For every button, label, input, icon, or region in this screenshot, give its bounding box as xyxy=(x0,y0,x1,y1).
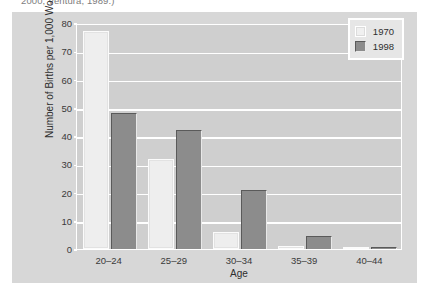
bar-1998-40-44[interactable] xyxy=(371,247,397,249)
y-axis-tick-label: 80 xyxy=(50,19,72,29)
bar-1998-20-24[interactable] xyxy=(111,113,137,249)
legend-swatch-icon xyxy=(355,26,366,37)
y-axis-tick-mark xyxy=(74,80,77,82)
y-axis-tick-label: 20 xyxy=(50,189,72,199)
clipped-caption-strip: 2000; Ventura, 1989.) xyxy=(0,0,428,9)
x-axis-tick-label: 35–39 xyxy=(291,255,317,266)
y-axis-tick-label: 60 xyxy=(50,76,72,86)
x-axis-tick-labels: 20–2425–2930–3435–3940–44 xyxy=(76,255,402,269)
x-axis-tick-label: 25–29 xyxy=(161,255,187,266)
y-axis-tick-labels: 01020304050607080 xyxy=(46,24,72,250)
x-axis-tick-label: 30–34 xyxy=(226,255,252,266)
y-axis-tick-label: 30 xyxy=(50,161,72,171)
y-axis-tick-mark xyxy=(74,165,77,167)
bar-group xyxy=(207,25,272,249)
y-axis-tick-label: 50 xyxy=(50,104,72,114)
legend-label: 1998 xyxy=(373,42,394,52)
y-axis-tick-mark xyxy=(74,52,77,54)
y-axis-tick-mark xyxy=(74,108,77,110)
bar-1998-35-39[interactable] xyxy=(306,236,332,249)
y-axis-tick-label: 10 xyxy=(50,217,72,227)
legend-item-1970[interactable]: 1970 xyxy=(355,24,394,39)
bar-1970-40-44[interactable] xyxy=(343,247,369,249)
y-axis-tick-label: 40 xyxy=(50,132,72,142)
y-axis-tick-mark xyxy=(74,136,77,138)
x-axis-title: Age xyxy=(76,268,402,279)
bar-1970-25-29[interactable] xyxy=(148,159,174,249)
legend-swatch-icon xyxy=(355,41,366,52)
legend-label: 1970 xyxy=(373,27,394,37)
y-axis-tick-mark xyxy=(74,249,77,251)
bar-group xyxy=(142,25,207,249)
x-axis-tick-label: 40–44 xyxy=(356,255,382,266)
y-axis-tick-mark xyxy=(74,23,77,25)
bar-group xyxy=(77,25,142,249)
y-axis-tick-label: 70 xyxy=(50,48,72,58)
clipped-caption-text: 2000; Ventura, 1989.) xyxy=(21,0,114,6)
bar-1970-30-34[interactable] xyxy=(213,232,239,249)
bar-1970-35-39[interactable] xyxy=(278,246,304,249)
bar-group xyxy=(273,25,338,249)
bar-1998-30-34[interactable] xyxy=(241,190,267,249)
legend-item-1998[interactable]: 1998 xyxy=(355,39,394,54)
x-axis-tick-label: 20–24 xyxy=(95,255,121,266)
y-axis-tick-mark xyxy=(74,193,77,195)
bar-1998-25-29[interactable] xyxy=(176,130,202,249)
y-axis-tick-label: 0 xyxy=(50,245,72,255)
y-axis-tick-mark xyxy=(74,221,77,223)
chart-legend: 19701998 xyxy=(348,18,404,60)
chart-figure-panel: Number of Births per 1,000 Women 0102030… xyxy=(12,12,417,283)
bar-1970-20-24[interactable] xyxy=(83,31,109,249)
